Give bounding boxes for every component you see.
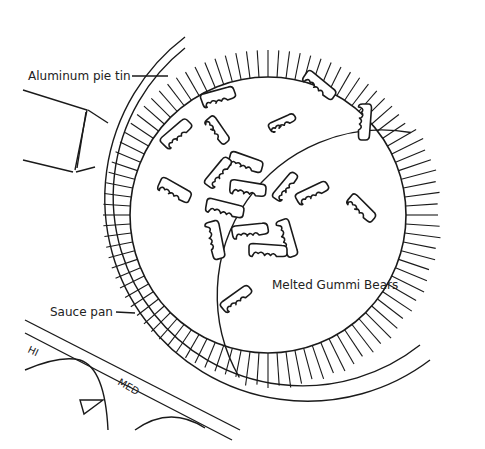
handle-bottom (23, 160, 73, 172)
handle-joint-top (88, 110, 108, 123)
label-aluminum-pie-tin: Aluminum pie tin (28, 69, 131, 83)
flute-line (106, 183, 132, 188)
stove-knob-med (135, 417, 205, 430)
flute-line (401, 251, 435, 260)
flute-line (406, 204, 438, 206)
label-sauce-pan: Sauce pan (50, 305, 113, 319)
flute-line (405, 233, 441, 238)
flute-line (125, 133, 148, 147)
gummi-bear (157, 176, 194, 203)
gummi-bear (231, 220, 269, 239)
gummi-bear (205, 198, 245, 218)
flute-line (401, 170, 436, 179)
flute-line (395, 268, 426, 281)
flute-line (125, 284, 148, 298)
sauce-pan-handle (23, 90, 108, 172)
flute-line (321, 342, 334, 372)
flute-line (116, 152, 141, 162)
flute-line (168, 84, 184, 105)
stove-control-panel: HI MED (25, 320, 240, 440)
flute-line (246, 352, 250, 386)
flute-line (131, 292, 153, 307)
flute-line (131, 123, 153, 138)
flute-line (257, 50, 259, 77)
handle-joint-bottom (76, 167, 95, 172)
gummi-bear (228, 151, 264, 173)
flute-line (304, 348, 312, 379)
flute-line (246, 51, 250, 78)
pie-tin-fluted-edge (103, 50, 441, 388)
knob-label-med: MED (116, 376, 141, 397)
diagram-canvas: HI MED Aluminum pie tin Sauce pan Melted… (0, 0, 485, 449)
gummi-bear (219, 282, 253, 313)
gummi-bear (294, 178, 329, 205)
flute-line (205, 63, 215, 88)
handle-outline (23, 90, 87, 170)
flute-line (366, 313, 391, 338)
flute-line (352, 324, 373, 352)
flute-line (383, 292, 412, 311)
flute-line (312, 346, 323, 379)
flute-line (403, 242, 435, 248)
gummi-bear (204, 220, 227, 260)
gummi-bear (267, 111, 296, 134)
flute-line (104, 193, 131, 197)
flute-line (399, 160, 431, 171)
flute-line (120, 142, 144, 154)
leader-sauce-pan (116, 312, 135, 313)
flute-line (405, 192, 440, 197)
flute-line (359, 319, 381, 344)
melted-gummi-bears (157, 69, 379, 313)
flute-line (277, 353, 279, 386)
flute-line (186, 72, 200, 95)
flute-line (176, 78, 191, 100)
flute-line (352, 84, 368, 105)
flute-line (372, 306, 398, 328)
knob-label-hi: HI (26, 344, 40, 358)
flute-line (215, 59, 224, 85)
sauce-pan-rim (105, 37, 430, 401)
flute-line (137, 115, 158, 131)
flute-line (137, 299, 158, 315)
flute-line (395, 150, 425, 162)
flute-line (295, 53, 300, 79)
gummi-bear (204, 115, 232, 146)
gummi-bear (346, 193, 379, 224)
knob-pointer-triangle-icon (80, 400, 103, 414)
gummi-bear (159, 116, 193, 150)
flute-line (295, 350, 302, 383)
flute-line (345, 78, 360, 100)
flute-line (377, 115, 398, 131)
flute-line (103, 204, 130, 206)
flute-line (337, 72, 351, 95)
handle-edge (77, 112, 86, 168)
flute-line (236, 53, 241, 79)
flute-line (286, 51, 290, 78)
flute-line (103, 224, 130, 226)
flute-line (399, 259, 429, 269)
flute-line (277, 50, 279, 77)
flute-line (406, 224, 440, 226)
flute-line (225, 56, 232, 82)
gummi-bear (249, 244, 287, 257)
gummi-bear (302, 69, 339, 100)
label-melted-gummi-bears: Melted Gummi Bears (272, 278, 398, 292)
flute-line (286, 352, 291, 388)
flute-line (109, 172, 135, 179)
flute-line (403, 182, 435, 188)
gummi-bear (203, 155, 232, 190)
flute-line (195, 67, 207, 91)
gummi-bear (271, 170, 298, 203)
